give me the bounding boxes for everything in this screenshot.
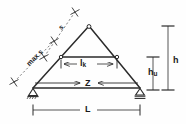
- pinned-support: [27, 89, 39, 100]
- s-dimension-line: [44, 12, 75, 57]
- label-collar-tie: lk: [80, 59, 86, 69]
- label-total-height: h: [173, 56, 179, 65]
- label-lower-height: hu: [148, 68, 157, 78]
- label-tie-force: Z: [85, 79, 91, 88]
- collar-tie-dimension: [61, 60, 117, 69]
- node-collar-right: [115, 55, 118, 58]
- node-apex: [87, 25, 91, 29]
- rafter-segment-dimension: [40, 8, 80, 62]
- label-span: L: [85, 105, 91, 114]
- label-collar-tie-subscript: k: [83, 61, 87, 68]
- joint-nodes: [59, 25, 118, 59]
- roller-support: [135, 89, 146, 99]
- label-lower-height-subscript: u: [154, 70, 158, 77]
- node-collar-left: [59, 55, 62, 58]
- truss-diagram-figure: s max s lk Z L h hu: [0, 0, 186, 124]
